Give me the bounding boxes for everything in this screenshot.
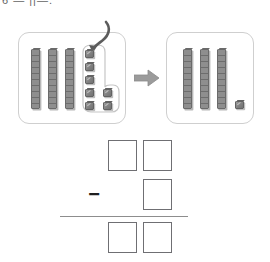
minus-operator: − — [86, 186, 102, 202]
difference-tens-box[interactable] — [108, 222, 137, 253]
arrow-right-icon — [134, 69, 160, 87]
subtraction-problem: − — [0, 134, 270, 262]
subtrahend-ones-box[interactable] — [143, 179, 172, 210]
unit-cube — [103, 89, 112, 97]
tens-rod — [48, 49, 57, 109]
regroup-curved-arrow — [77, 19, 117, 55]
tens-rod — [217, 49, 226, 109]
unit-cube — [103, 102, 112, 110]
equation-rule-line — [60, 216, 188, 217]
unit-cube — [85, 102, 94, 110]
tens-rod — [31, 49, 40, 109]
unit-cube — [85, 63, 94, 71]
header-text: 6 — ||—. — [2, 0, 122, 6]
minuend-tens-box[interactable] — [108, 140, 137, 171]
before-regrouping-panel — [18, 32, 126, 124]
unit-cube — [85, 89, 94, 97]
after-regrouping-panel — [166, 32, 254, 124]
tens-rod — [183, 49, 192, 109]
unit-cube — [85, 50, 94, 58]
difference-ones-box[interactable] — [143, 222, 172, 253]
unit-cube — [85, 76, 94, 84]
unit-cube — [235, 101, 244, 109]
tens-rod — [200, 49, 209, 109]
tens-rod — [65, 49, 74, 109]
minuend-ones-box[interactable] — [143, 140, 172, 171]
